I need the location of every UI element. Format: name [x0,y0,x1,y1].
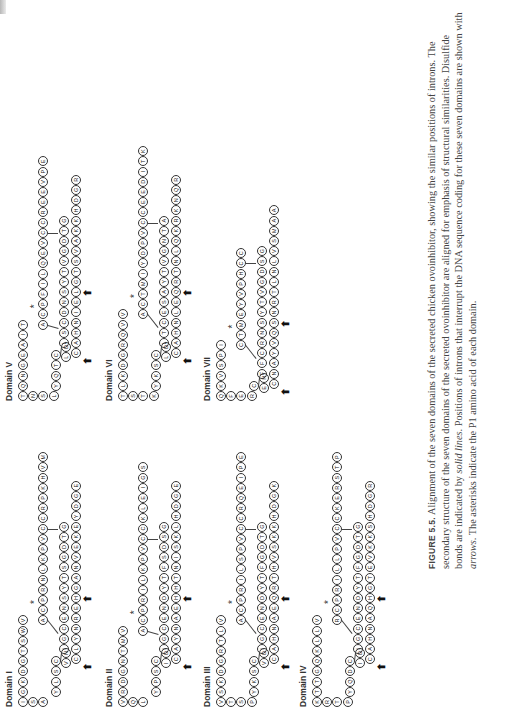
residue: L [161,352,171,362]
residue: G [257,552,267,562]
residue: Q [236,493,246,503]
residue: S [59,287,69,297]
residue: G [353,634,363,644]
residue: C [171,654,181,664]
residue: L [118,381,128,391]
residue: I [138,269,148,279]
residue: C [138,299,148,309]
residue: P [151,677,161,687]
residue: Q [38,258,48,268]
residue: N [269,267,279,277]
residue: T [59,573,69,583]
residue: A [38,697,48,707]
residue: A [159,216,169,226]
residue: R [247,391,257,401]
residue: S [151,360,161,370]
residue: H [171,583,181,593]
residue: T [353,532,363,542]
residue: H [171,328,181,338]
residue: S [128,391,138,401]
residue: V [236,289,246,299]
residue: T [257,573,267,583]
residue: E [332,493,342,503]
residue: K [118,371,128,381]
residue: R [171,216,181,226]
disulfide-bond [246,620,257,634]
residue: C [236,248,246,258]
residue: T [59,226,69,236]
domain-label: Domain II [104,669,114,707]
disulfide-bond [148,223,158,224]
residue: V [18,615,28,625]
residue: S [159,532,169,542]
residue: K [71,226,81,236]
residue: L [138,575,148,585]
p1-asterisk: * [227,600,238,604]
residue: K [18,677,28,687]
residue: G [18,687,28,697]
residue: H [365,593,375,603]
residue: E [365,562,375,572]
residue: V [38,534,48,544]
residue: D [365,501,375,511]
residue: I [216,340,226,350]
residue: P [138,554,148,564]
residue: P [216,350,226,360]
residue: I [355,658,365,668]
residue: R [171,277,181,287]
residue: D [257,267,267,277]
residue: S [269,542,279,552]
residue: S [236,554,246,564]
residue: M [138,279,148,289]
caption-body: Alignment of the seven domains of the se… [426,12,478,569]
residue: T [118,646,128,656]
residue: S [59,328,69,338]
residue: Y [257,583,267,593]
residue: F [257,562,267,572]
residue: S [257,256,267,266]
caption-part: arrows [467,540,478,569]
residue: V [118,309,128,319]
residue: Q [312,656,322,666]
residue: C [51,656,61,666]
residue: D [257,593,267,603]
residue: C [257,348,267,358]
domain-label: Domain III [202,666,212,707]
residue: K [365,542,375,552]
intron-arrow-icon: ⬆ [281,663,291,671]
disulfide-bond [148,314,159,328]
residue: C [38,228,48,238]
residue: T [332,462,342,472]
residue: G [312,666,322,676]
residue: C [159,624,169,634]
residue: K [151,371,161,381]
residue: T [18,391,28,401]
residue: C [138,218,148,228]
residue: H [365,634,375,644]
residue: K [312,697,322,707]
residue: R [269,583,279,593]
residue: R [71,613,81,623]
residue: T [159,573,169,583]
residue: Q [171,287,181,297]
residue: G [257,522,267,532]
residue: C [269,379,279,389]
residue: T [312,687,322,697]
residue: T [18,320,28,330]
residue: S [151,666,161,676]
intron-arrow-icon: ⬆ [377,595,387,603]
domain-label: Domain VII [202,357,212,401]
residue: G [71,583,81,593]
residue: R [236,503,246,513]
residue: Y [71,634,81,644]
residue: K [171,226,181,236]
residue: C [71,348,81,358]
residue: Y [59,277,69,287]
intron-arrow-icon: ⬆ [183,357,193,365]
residue: E [71,522,81,532]
residue: E [38,248,48,258]
residue: H [71,328,81,338]
residue: Q [118,330,128,340]
residue: G [59,216,69,226]
residue: Y [151,381,161,391]
